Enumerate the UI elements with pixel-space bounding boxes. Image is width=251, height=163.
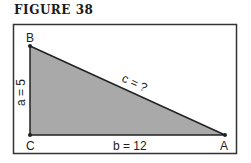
vertex-a-dot xyxy=(223,133,227,137)
vertex-a-label: A xyxy=(220,139,228,153)
side-b-label: b = 12 xyxy=(113,139,147,153)
triangle-shape xyxy=(30,46,225,135)
vertex-b-label: B xyxy=(26,31,34,45)
right-triangle-diagram: B C A b = 12 a = 5 c = ? xyxy=(0,0,251,163)
vertex-c-dot xyxy=(28,133,32,137)
vertex-c-label: C xyxy=(26,139,35,153)
side-a-label: a = 5 xyxy=(14,79,28,106)
